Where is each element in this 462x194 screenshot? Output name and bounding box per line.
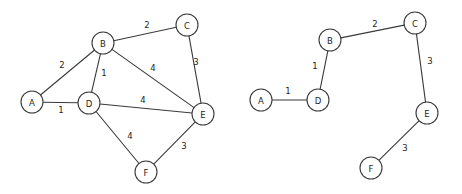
nodes-layer: ABCDEFABCDEF bbox=[21, 12, 438, 183]
graph-edge-c-e bbox=[416, 34, 425, 102]
edge-labels-layer: 21214344311233 bbox=[58, 19, 432, 153]
node-label: F bbox=[369, 164, 374, 174]
node-label: E bbox=[424, 109, 429, 119]
graph-node-e: E bbox=[192, 103, 214, 125]
node-label: E bbox=[200, 110, 205, 120]
edge-weight-label: 2 bbox=[144, 20, 149, 30]
graph-edge-a-d bbox=[43, 102, 78, 103]
graph-edge-b-d bbox=[92, 54, 101, 93]
edge-weight-label: 4 bbox=[127, 131, 132, 141]
node-label: C bbox=[412, 19, 418, 29]
graph-node-f: F bbox=[360, 157, 382, 179]
edge-weight-label: 2 bbox=[372, 19, 377, 29]
graph-node-b: B bbox=[319, 29, 341, 51]
edge-weight-label: 3 bbox=[193, 57, 198, 67]
graph-edge-e-f bbox=[154, 122, 196, 164]
graph-edge-b-e bbox=[112, 49, 194, 107]
graph-node-d: D bbox=[307, 89, 329, 111]
graph-edge-d-e bbox=[100, 104, 192, 113]
node-label: B bbox=[327, 36, 333, 46]
node-label: B bbox=[100, 39, 106, 49]
edge-weight-label: 1 bbox=[58, 105, 63, 115]
edge-weight-label: 4 bbox=[150, 63, 155, 73]
edge-weight-label: 1 bbox=[312, 61, 317, 71]
graph-diagram-figure: ABCDEFABCDEF 21214344311233 bbox=[0, 0, 462, 194]
edge-weight-label: 3 bbox=[181, 141, 186, 151]
graph-edge-c-e bbox=[189, 36, 201, 103]
node-label: A bbox=[29, 98, 35, 108]
graph-node-a: A bbox=[21, 91, 43, 113]
graph-node-b: B bbox=[92, 32, 114, 54]
node-label: F bbox=[144, 168, 149, 178]
edge-weight-label: 2 bbox=[59, 60, 64, 70]
edge-weight-label: 3 bbox=[427, 56, 432, 66]
graph-node-e: E bbox=[416, 102, 438, 124]
graph-edge-a-b bbox=[40, 50, 94, 95]
edge-weight-label: 3 bbox=[402, 143, 407, 153]
diagram-canvas: ABCDEFABCDEF 21214344311233 bbox=[0, 0, 462, 194]
graph-node-c: C bbox=[404, 12, 426, 34]
node-label: A bbox=[258, 96, 264, 106]
graph-node-d: D bbox=[78, 92, 100, 114]
node-label: C bbox=[184, 21, 190, 31]
node-label: D bbox=[315, 96, 322, 106]
edge-weight-label: 1 bbox=[101, 68, 106, 78]
node-label: D bbox=[86, 99, 93, 109]
edge-weight-label: 1 bbox=[285, 86, 290, 96]
graph-edge-e-f bbox=[379, 121, 419, 161]
graph-node-a: A bbox=[250, 89, 272, 111]
graph-edge-b-d bbox=[320, 51, 328, 89]
graph-node-f: F bbox=[135, 161, 157, 183]
graph-node-c: C bbox=[176, 14, 198, 36]
edge-weight-label: 4 bbox=[140, 95, 145, 105]
